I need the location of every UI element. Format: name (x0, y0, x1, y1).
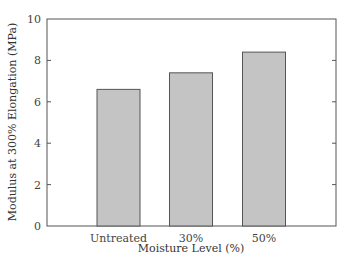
x-tick-label: 50% (252, 232, 276, 245)
bars (97, 52, 286, 226)
y-tick-label: 8 (34, 54, 41, 67)
y-tick-label: 2 (34, 179, 41, 192)
bar (243, 52, 286, 226)
y-tick-label: 0 (34, 220, 41, 233)
x-axis-title: Moisture Level (%) (138, 242, 244, 255)
bar-chart: 0246810 Untreated30%50% Moisture Level (… (0, 0, 354, 268)
y-tick-label: 4 (34, 137, 41, 150)
bar (97, 89, 140, 226)
y-tick-label: 10 (27, 13, 41, 26)
y-axis-title: Modulus at 300% Elongation (MPa) (6, 23, 19, 221)
y-tick-label: 6 (34, 96, 41, 109)
bar (170, 73, 213, 226)
